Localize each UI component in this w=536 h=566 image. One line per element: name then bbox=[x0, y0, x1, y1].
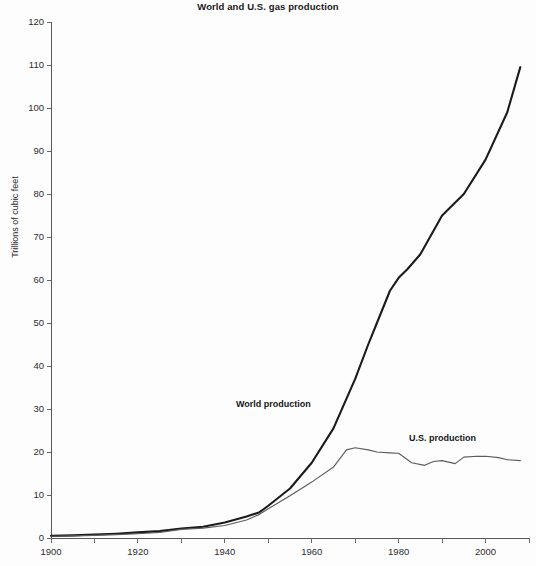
x-axis: 190019201940196019802000 bbox=[40, 538, 529, 557]
world-production-line bbox=[51, 67, 520, 536]
y-tick-label: 10 bbox=[33, 489, 44, 500]
data-series-group bbox=[51, 67, 520, 536]
x-tick-label: 1980 bbox=[388, 546, 409, 557]
world-production-annotation: World production bbox=[236, 399, 311, 409]
y-tick-label: 110 bbox=[29, 59, 44, 70]
y-tick-label: 50 bbox=[33, 317, 44, 328]
series-annotations: World productionU.S. production bbox=[236, 399, 476, 443]
x-tick-label: 2000 bbox=[475, 546, 496, 557]
us-production-annotation: U.S. production bbox=[409, 433, 476, 443]
y-tick-label: 30 bbox=[33, 403, 44, 414]
y-tick-label: 40 bbox=[33, 360, 44, 371]
y-tick-label: 60 bbox=[33, 274, 44, 285]
x-tick-label: 1920 bbox=[127, 546, 148, 557]
y-tick-label: 100 bbox=[28, 102, 44, 113]
x-tick-label: 1940 bbox=[214, 546, 235, 557]
y-tick-label: 70 bbox=[33, 231, 44, 242]
x-tick-label: 1960 bbox=[301, 546, 322, 557]
gas-production-chart-figure: World and U.S. gas production Trillions … bbox=[0, 0, 536, 566]
x-tick-label: 1900 bbox=[40, 546, 61, 557]
plot-area: 0102030405060708090100110120 19001920194… bbox=[0, 0, 536, 566]
y-tick-label: 20 bbox=[33, 446, 44, 457]
y-tick-label: 0 bbox=[39, 532, 44, 543]
y-tick-label: 120 bbox=[28, 16, 44, 27]
y-tick-label: 80 bbox=[33, 188, 44, 199]
y-tick-label: 90 bbox=[33, 145, 44, 156]
y-axis: 0102030405060708090100110120 bbox=[28, 16, 51, 543]
